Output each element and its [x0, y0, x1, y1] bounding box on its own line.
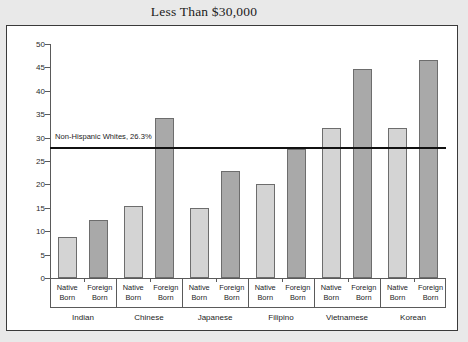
x-axis-label-band: NativeBornForeignBornNativeBornForeignBo… [50, 278, 446, 308]
y-axis-tick-label: 20 [21, 184, 45, 185]
x-label-line: Native [123, 283, 144, 293]
bar-indian-native-born [58, 237, 77, 278]
x-label-line: Native [387, 283, 408, 293]
x-label-line: Born [158, 293, 174, 303]
bar-japanese-foreign-born [221, 171, 240, 278]
x-label-line: Native [57, 283, 78, 293]
x-label-line: Foreign [351, 283, 376, 293]
group-name-indian: Indian [50, 310, 116, 324]
y-axis-tick-label: 15 [21, 208, 45, 209]
x-label-line: Foreign [219, 283, 244, 293]
page-title: Less Than $30,000 [0, 4, 468, 20]
x-label-group-indian: NativeBornForeignBorn [51, 278, 117, 307]
x-label-korean-foreign-born: ForeignBorn [414, 278, 447, 307]
x-label-group-japanese: NativeBornForeignBorn [183, 278, 249, 307]
y-axis-tick-label: 0 [21, 278, 45, 279]
bar-vietnamese-foreign-born [353, 69, 372, 278]
y-axis-tick [45, 255, 50, 256]
x-label-line: Born [290, 293, 306, 303]
group-name-filipino: Filipino [248, 310, 314, 324]
x-label-group-filipino: NativeBornForeignBorn [249, 278, 315, 307]
x-label-chinese-native-born: NativeBorn [117, 278, 150, 307]
x-label-line: Foreign [87, 283, 112, 293]
bar-vietnamese-native-born [322, 128, 341, 278]
x-label-line: Born [390, 293, 406, 303]
chart-panel: 50454035302520151050 Non-Hispanic Whites… [6, 25, 458, 331]
x-label-vietnamese-native-born: NativeBorn [315, 278, 348, 307]
y-axis-tick [45, 138, 50, 139]
x-label-line: Foreign [418, 283, 443, 293]
y-axis-tick [45, 67, 50, 68]
bar-filipino-foreign-born [287, 149, 306, 278]
group-name-japanese: Japanese [182, 310, 248, 324]
x-label-vietnamese-foreign-born: ForeignBorn [348, 278, 381, 307]
y-axis-tick-label: 45 [21, 67, 45, 68]
x-label-line: Born [323, 293, 339, 303]
y-axis [50, 44, 51, 278]
x-label-line: Foreign [285, 283, 310, 293]
x-label-filipino-foreign-born: ForeignBorn [282, 278, 315, 307]
group-name-korean: Korean [380, 310, 446, 324]
bar-chinese-foreign-born [155, 118, 174, 278]
y-axis-tick-label: 30 [21, 138, 45, 139]
x-label-indian-native-born: NativeBorn [51, 278, 84, 307]
x-label-group-vietnamese: NativeBornForeignBorn [315, 278, 381, 307]
y-axis-tick [45, 44, 50, 45]
y-axis-tick-label: 50 [21, 44, 45, 45]
plot-area: 50454035302520151050 Non-Hispanic Whites… [7, 26, 459, 332]
y-axis-tick-label: 25 [21, 161, 45, 162]
x-label-line: Born [92, 293, 108, 303]
x-label-line: Born [224, 293, 240, 303]
y-axis-tick [45, 91, 50, 92]
reference-line [50, 147, 446, 148]
x-label-line: Native [321, 283, 342, 293]
x-label-korean-native-born: NativeBorn [381, 278, 414, 307]
x-label-line: Born [356, 293, 372, 303]
x-label-line: Born [191, 293, 207, 303]
y-axis-tick [45, 231, 50, 232]
x-label-japanese-foreign-born: ForeignBorn [216, 278, 249, 307]
bar-chinese-native-born [124, 206, 143, 278]
y-axis-tick-label: 10 [21, 231, 45, 232]
y-axis-tick [45, 161, 50, 162]
x-label-line: Born [423, 293, 439, 303]
x-label-line: Born [125, 293, 141, 303]
y-axis-tick-label: 40 [21, 91, 45, 92]
x-label-line: Native [189, 283, 210, 293]
chart-figure: Less Than $30,000 50454035302520151050 N… [0, 0, 468, 342]
x-label-filipino-native-born: NativeBorn [249, 278, 282, 307]
x-label-line: Native [255, 283, 276, 293]
x-label-group-korean: NativeBornForeignBorn [381, 278, 447, 307]
bar-japanese-native-born [190, 208, 209, 278]
y-axis-tick [45, 114, 50, 115]
y-axis-tick-label: 5 [21, 255, 45, 256]
bar-filipino-native-born [256, 184, 275, 278]
y-axis-tick-label: 35 [21, 114, 45, 115]
y-axis-tick [45, 208, 50, 209]
y-axis-tick [45, 184, 50, 185]
x-label-chinese-foreign-born: ForeignBorn [150, 278, 183, 307]
x-label-line: Foreign [153, 283, 178, 293]
bar-indian-foreign-born [89, 220, 108, 278]
x-label-group-chinese: NativeBornForeignBorn [117, 278, 183, 307]
x-label-line: Born [59, 293, 75, 303]
group-name-vietnamese: Vietnamese [314, 310, 380, 324]
reference-line-label: Non-Hispanic Whites, 26.3% [55, 132, 152, 141]
group-name-chinese: Chinese [116, 310, 182, 324]
bar-korean-native-born [388, 128, 407, 278]
x-label-japanese-native-born: NativeBorn [183, 278, 216, 307]
x-label-line: Born [257, 293, 273, 303]
x-label-indian-foreign-born: ForeignBorn [84, 278, 117, 307]
bar-korean-foreign-born [419, 60, 438, 278]
x-axis-group-names: IndianChineseJapaneseFilipinoVietnameseK… [50, 310, 446, 324]
